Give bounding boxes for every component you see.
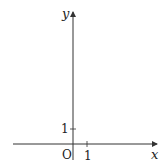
x-axis-label: x <box>151 147 159 162</box>
origin-label: O <box>62 148 72 162</box>
x-tick-label: 1 <box>84 149 92 163</box>
coordinate-plane: y x O 1 1 <box>0 0 167 168</box>
y-tick-label: 1 <box>61 122 69 136</box>
y-axis-label: y <box>61 6 70 21</box>
